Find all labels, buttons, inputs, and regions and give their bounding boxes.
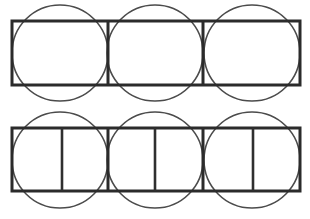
inner-divider-group-bottom	[62, 128, 253, 191]
diagram-canvas	[0, 0, 310, 219]
strip-outline-top	[12, 21, 300, 85]
diagram-row-top	[12, 5, 300, 101]
diagram-row-bottom	[12, 112, 300, 208]
inscribed-circle	[204, 5, 300, 101]
inscribed-circle	[12, 112, 108, 208]
figure-svg	[0, 0, 310, 219]
inscribed-circle	[107, 5, 203, 101]
inscribed-circle	[12, 5, 108, 101]
circle-group-top	[12, 5, 300, 101]
cell-divider-group-top	[108, 21, 203, 85]
